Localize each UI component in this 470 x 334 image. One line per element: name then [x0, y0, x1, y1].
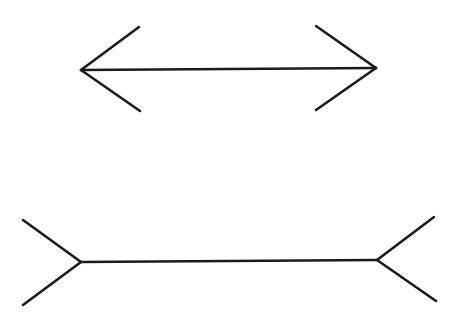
fin-line — [23, 220, 81, 262]
top-figure-arrowheads — [81, 26, 376, 111]
fin-line — [377, 260, 436, 301]
fin-line — [23, 262, 81, 305]
fin-line — [81, 27, 139, 70]
fin-line — [377, 217, 434, 260]
shaft-line — [81, 68, 376, 70]
muller-lyer-diagram — [0, 0, 470, 334]
fin-line — [81, 70, 140, 111]
shaft-line — [81, 260, 377, 262]
fin-line — [316, 68, 376, 110]
bottom-figure-tails — [23, 217, 436, 305]
fin-line — [316, 26, 376, 68]
